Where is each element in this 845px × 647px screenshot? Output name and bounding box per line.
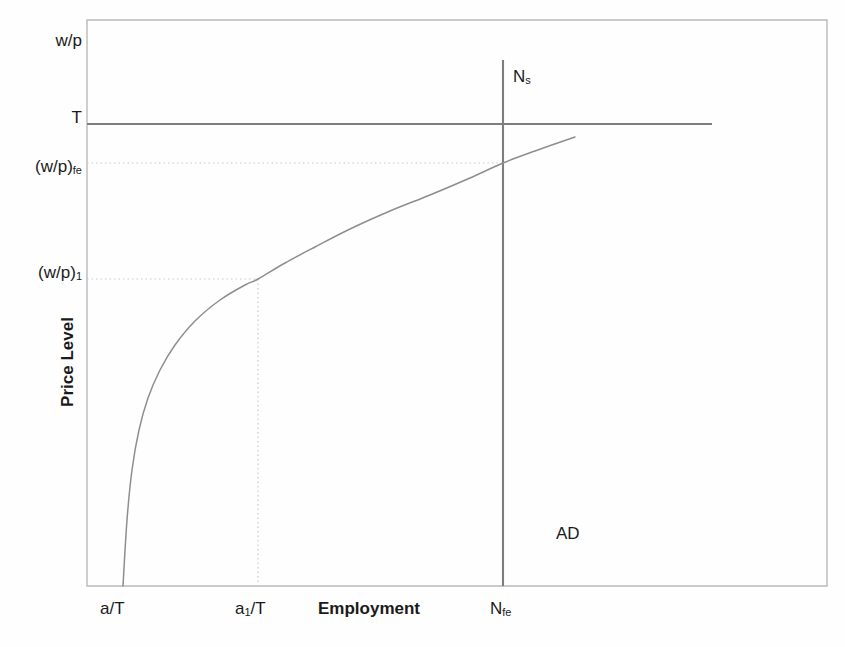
x-tick-label-a1-over-t: a1/T (235, 600, 266, 617)
x-axis-title: Employment (318, 600, 420, 617)
y-tick-label-wp-1: (w/p)1 (38, 264, 82, 281)
aggregate-demand-curve (123, 137, 575, 586)
y-axis-title: Price Level (58, 312, 78, 412)
diagram-canvas (0, 0, 845, 647)
plot-frame (87, 20, 827, 586)
labour-supply-curve-label: Ns (513, 68, 531, 85)
y-tick-label-T: T (72, 109, 82, 126)
y-tick-label-wp-max: w/p (56, 32, 82, 49)
aggregate-demand-curve-label: AD (556, 525, 580, 542)
economics-diagram: w/p T (w/p)fe (w/p)1 Price Level a/T a1/… (0, 0, 845, 647)
x-tick-label-a-over-t: a/T (100, 600, 125, 617)
y-tick-label-wp-fe: (w/p)fe (35, 158, 82, 175)
x-tick-label-n-fe: Nfe (490, 600, 511, 617)
